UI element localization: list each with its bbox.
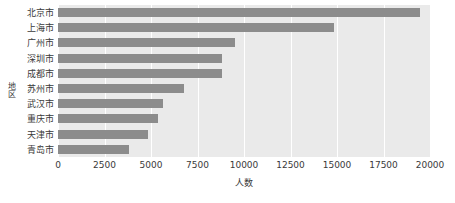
y-tick-label: 深圳市 xyxy=(18,51,56,66)
bar-row xyxy=(58,20,430,35)
x-tick-label: 15000 xyxy=(323,160,352,170)
x-tick-label: 0 xyxy=(55,160,61,170)
x-tick-label: 5000 xyxy=(140,160,163,170)
x-tick-label: 10000 xyxy=(230,160,259,170)
bars-container xyxy=(58,5,430,157)
x-tick-label: 17500 xyxy=(369,160,398,170)
y-tick-label: 北京市 xyxy=(18,5,56,20)
bar-row xyxy=(58,96,430,111)
bar xyxy=(58,84,184,93)
x-axis-title: 人数 xyxy=(58,176,430,189)
y-axis-tick-labels: 北京市上海市广州市深圳市成都市苏州市武汉市重庆市天津市青岛市 xyxy=(18,5,56,157)
y-tick-label: 重庆市 xyxy=(18,111,56,126)
y-tick-label: 上海市 xyxy=(18,20,56,35)
y-tick-label: 成都市 xyxy=(18,66,56,81)
y-tick-label: 青岛市 xyxy=(18,142,56,157)
y-axis-title: 地区 xyxy=(2,70,18,110)
bar-row xyxy=(58,142,430,157)
bar-row xyxy=(58,127,430,142)
bar xyxy=(58,8,420,17)
bar xyxy=(58,99,163,108)
x-axis-tick-labels: 02500500075001000012500150001750020000 xyxy=(58,160,430,174)
bar xyxy=(58,69,222,78)
y-tick-label: 广州市 xyxy=(18,35,56,50)
y-tick-label: 天津市 xyxy=(18,127,56,142)
bar-row xyxy=(58,66,430,81)
bar xyxy=(58,145,129,154)
x-tick-label: 12500 xyxy=(276,160,305,170)
bar xyxy=(58,54,222,63)
bar-row xyxy=(58,5,430,20)
bar xyxy=(58,130,148,139)
y-tick-label: 武汉市 xyxy=(18,96,56,111)
bar-chart-figure: 地区 北京市上海市广州市深圳市成都市苏州市武汉市重庆市天津市青岛市 025005… xyxy=(0,0,455,203)
bar xyxy=(58,23,334,32)
bar-row xyxy=(58,81,430,96)
x-tick-label: 7500 xyxy=(186,160,209,170)
bar-row xyxy=(58,51,430,66)
y-tick-label: 苏州市 xyxy=(18,81,56,96)
bar xyxy=(58,114,158,123)
bar xyxy=(58,38,235,47)
bar-row xyxy=(58,111,430,126)
bar-row xyxy=(58,35,430,50)
x-tick-label: 20000 xyxy=(416,160,445,170)
x-tick-label: 2500 xyxy=(93,160,116,170)
plot-area xyxy=(58,5,430,157)
